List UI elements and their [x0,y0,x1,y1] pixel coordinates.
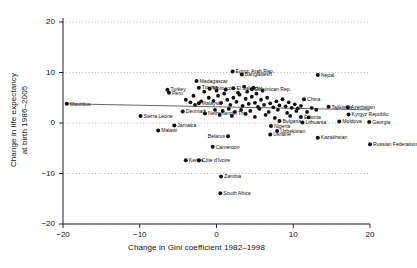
data-point-kazakhstan [316,136,320,140]
data-point [244,97,248,101]
data-point [290,106,294,110]
data-point [235,100,239,104]
data-point [225,98,229,102]
point-label-malaysia: Malaysia [202,100,222,106]
data-point [255,92,259,96]
data-point [284,104,288,108]
data-point-belarus [226,134,230,138]
data-point [278,103,282,107]
point-label-peru: Peru [172,90,183,96]
data-point [258,107,262,111]
point-label-lithuania: Lithuania [305,119,326,125]
data-point [276,108,280,112]
data-point [247,102,251,106]
data-point [314,108,318,112]
x-tick-label-20: 20 [350,230,390,239]
data-point [222,92,226,96]
data-point [253,101,257,105]
data-point [274,99,278,103]
data-point-tajikistan [327,105,331,109]
data-point [287,100,291,104]
x-tick-label-0: 0 [197,230,237,239]
y-axis-title-line1: Change in life expectancy [9,73,18,167]
data-point [281,97,285,101]
data-point [294,109,298,113]
point-label-denmark: Denmark [186,108,207,114]
data-point [253,115,257,119]
data-point [193,103,197,107]
point-label-russian-federation: Russian Federation [373,141,417,147]
x-axis-title: Change in Gini coefficient 1982–1998 [0,243,393,252]
data-point-china [302,97,306,101]
data-point-mauritius [65,102,69,106]
data-point-kenya [184,158,188,162]
point-label-south-africa: South Africa [223,190,250,196]
data-point-ukraine [268,133,272,137]
data-point [248,109,252,113]
x-tick-label--10: −10 [120,230,160,239]
data-point-nepal [316,73,320,77]
data-point [271,105,275,109]
data-point [250,95,254,99]
data-point-madagascar [195,79,199,83]
data-point-nigeria [269,124,273,128]
point-label-tajikistan: Tajikistan [332,104,353,110]
point-label-kazakhstan: Kazakhstan [321,134,348,140]
data-point [241,104,245,108]
data-point [268,101,272,105]
point-label-zambia: Zambia [224,173,241,179]
point-label-nepal: Nepal [321,72,334,78]
data-point-cameroon [211,145,215,149]
data-point [231,96,235,100]
data-point [228,103,232,107]
data-point [259,98,263,102]
data-point [264,113,268,117]
y-axis-title-line2: at birth 1986–2005 [20,86,29,155]
data-point [207,96,211,100]
data-point [265,96,269,100]
data-point [262,103,266,107]
point-label-ukraine: Ukraine [273,131,291,137]
data-point [184,98,188,102]
data-point-russian-federation [368,142,372,146]
data-point [273,116,277,120]
data-point [267,110,271,114]
data-point-south-africa [218,191,222,195]
point-label-mauritius: Mauritius [70,101,91,107]
point-label-china: China [307,96,320,102]
data-point [216,94,220,98]
point-label-jamaica: Jamaica [177,122,196,128]
data-point-zambia [219,175,223,179]
data-point-georgia [367,120,371,124]
data-point-malaysia [197,101,201,105]
data-point-egypt-arab-rep [231,69,235,73]
point-label-georgia: Georgia [372,119,390,125]
data-point-denmark [181,109,185,113]
data-point-moldova [337,119,341,123]
point-label-kyrgyz-republic: Kyrgyz Republic [352,111,389,117]
data-point [310,106,314,110]
point-label-bangladesh: Bangladesh [245,71,272,77]
data-point-tunisia [197,86,201,90]
point-label-morocco: Morocco [213,85,233,91]
point-label-netherlands-the: Netherlands, The [208,110,247,116]
point-label-sierra-leone: Sierra Leone [144,113,173,119]
point-label-moldova: Moldova [342,118,361,124]
data-point [299,104,303,108]
point-label-dominican-rep: Dominican Rep. [255,86,291,92]
data-point [293,102,297,106]
y-axis-title: Change in life expectancyat birth 1986–2… [8,15,30,225]
x-tick-label--20: −20 [43,230,83,239]
data-point [236,91,240,95]
data-point [192,94,196,98]
point-label-belarus: Belarus [0,133,225,139]
point-label-madagascar: Madagascar [200,78,228,84]
data-point [189,100,193,104]
data-point-sierra-leone [139,114,143,118]
x-tick-label-10: 10 [273,230,313,239]
data-point [285,111,289,115]
data-point-kyrgyz-republic [347,112,351,116]
point-label-azerbaijan: Azerbaijan [351,104,375,110]
point-label-cameroon: Cameroon [216,144,240,150]
